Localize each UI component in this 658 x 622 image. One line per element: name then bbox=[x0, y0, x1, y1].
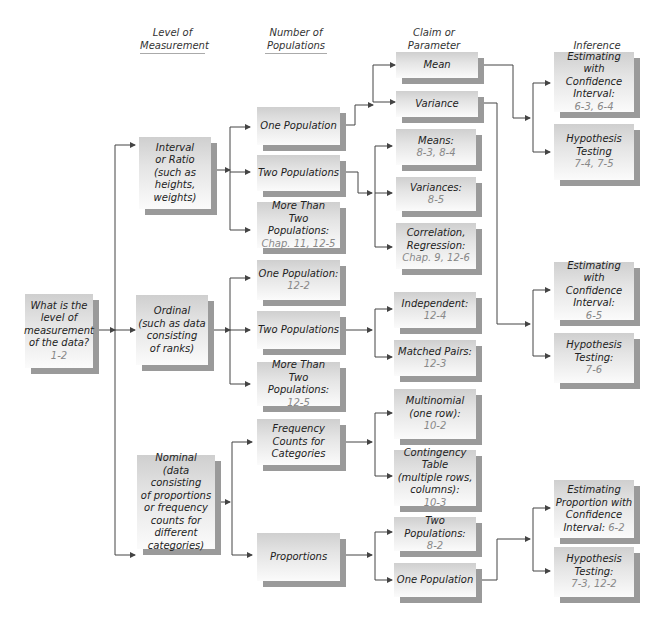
box-text: measurement bbox=[24, 325, 94, 338]
section-ref: 8-5 bbox=[428, 194, 444, 207]
pop-proportions-box: Proportions bbox=[257, 533, 340, 581]
box-text: Counts for bbox=[273, 436, 325, 449]
level-interval-ratio-box: Interval or Ratio (such as heights, weig… bbox=[139, 137, 211, 209]
box-text: Two Populations: bbox=[257, 372, 340, 397]
box-text: Hypothesis bbox=[566, 133, 622, 146]
box-text: of the data? bbox=[29, 337, 89, 350]
section-ref: 8-2 bbox=[427, 540, 443, 553]
pop-ordinal-more-box: More Than Two Populations: 12-5 bbox=[257, 362, 340, 406]
box-text: of proportions bbox=[141, 490, 211, 503]
box-text: One Population bbox=[397, 574, 473, 587]
section-ref: 6-2 bbox=[608, 522, 624, 533]
box-text: (such as data bbox=[138, 318, 206, 331]
box-text: Two Populations: bbox=[257, 213, 340, 238]
box-text: Estimating bbox=[567, 484, 620, 497]
section-ref: Chap. 11, 12-5 bbox=[262, 238, 336, 251]
section-ref: Chap. 9, 12-6 bbox=[402, 252, 470, 265]
section-ref: 6-5 bbox=[586, 310, 602, 323]
box-text: Categories bbox=[272, 448, 326, 461]
section-ref: 7-4, 7-5 bbox=[574, 158, 613, 171]
box-text: More Than bbox=[272, 359, 325, 372]
pop-frequency-counts-box: Frequency Counts for Categories bbox=[257, 419, 340, 465]
box-text: One Population: bbox=[259, 268, 339, 281]
box-text: (multiple rows, bbox=[398, 472, 473, 485]
box-text: (such as bbox=[154, 167, 196, 180]
claim-independent-box: Independent: 12-4 bbox=[394, 292, 476, 328]
box-text: Two Populations bbox=[258, 167, 339, 180]
pop-interval-more-box: More Than Two Populations: Chap. 11, 12-… bbox=[257, 202, 340, 248]
level-nominal-box: Nominal (data consisting of proportions … bbox=[137, 455, 215, 549]
box-text: weights) bbox=[154, 192, 197, 205]
box-text: Variances: bbox=[410, 182, 462, 195]
root-question-box: What is the level of measurement of the … bbox=[25, 294, 93, 368]
box-text: Estimating bbox=[567, 51, 620, 64]
inference-hypothesis-testing-1-box: Hypothesis Testing 7-4, 7-5 bbox=[554, 124, 634, 180]
box-text: More Than bbox=[272, 200, 325, 213]
box-text: different bbox=[154, 527, 197, 540]
box-text: Testing bbox=[576, 146, 612, 159]
box-text: Contingency Table bbox=[394, 447, 476, 472]
inference-estimating-proportion-ci-box: Estimating Proportion with Confidence In… bbox=[554, 480, 634, 538]
box-text: consisting bbox=[147, 330, 198, 343]
section-ref: 8-3, 8-4 bbox=[416, 147, 455, 160]
box-text: (one row): bbox=[409, 408, 460, 421]
box-text: Proportion with bbox=[556, 497, 632, 510]
claim-variances-box: Variances: 8-5 bbox=[396, 177, 476, 211]
box-text: Ordinal bbox=[154, 305, 190, 318]
section-ref: 1-2 bbox=[51, 350, 67, 363]
box-text: Confidence bbox=[566, 509, 622, 522]
section-ref: 10-2 bbox=[424, 420, 447, 433]
box-text: Hypothesis bbox=[566, 553, 622, 566]
section-ref: 12-2 bbox=[287, 280, 310, 293]
claim-multinomial-box: Multinomial (one row): 10-2 bbox=[394, 389, 476, 439]
pop-interval-two-box: Two Populations bbox=[257, 155, 340, 191]
claim-two-populations-box: Two Populations: 8-2 bbox=[394, 517, 476, 551]
box-text: Nominal bbox=[155, 452, 196, 465]
section-ref: 7-3, 12-2 bbox=[571, 578, 616, 591]
box-text: or frequency bbox=[144, 502, 208, 515]
section-ref: 12-5 bbox=[287, 397, 310, 410]
box-text: Interval: bbox=[573, 297, 615, 310]
box-text: Two Populations: bbox=[394, 515, 476, 540]
claim-mean-box: Mean bbox=[396, 52, 478, 78]
box-text: Proportions bbox=[270, 551, 327, 564]
box-text: level of bbox=[41, 312, 78, 325]
section-ref: 12-4 bbox=[424, 310, 447, 323]
level-ordinal-box: Ordinal (such as data consisting of rank… bbox=[136, 295, 208, 365]
box-text: Two Populations bbox=[258, 324, 339, 337]
box-text: Interval: bbox=[573, 88, 615, 101]
inference-hypothesis-testing-2-box: Hypothesis Testing: 7-6 bbox=[554, 333, 634, 383]
claim-means-box: Means: 8-3, 8-4 bbox=[396, 129, 476, 165]
box-text: counts for bbox=[151, 515, 201, 528]
box-text: One Population bbox=[260, 120, 336, 133]
pop-ordinal-two-box: Two Populations bbox=[257, 311, 340, 349]
claim-contingency-table-box: Contingency Table (multiple rows, column… bbox=[394, 450, 476, 506]
box-text: Variance bbox=[415, 98, 458, 111]
box-text: Interval bbox=[156, 142, 194, 155]
pop-ordinal-one-box: One Population: 12-2 bbox=[257, 260, 340, 300]
box-text: (data consisting bbox=[137, 465, 215, 490]
box-text: Matched Pairs: bbox=[398, 346, 472, 359]
inference-estimating-ci-2-box: Estimating with Confidence Interval: 6-5 bbox=[554, 262, 634, 320]
box-text: Correlation, bbox=[407, 227, 466, 240]
box-text: or Ratio bbox=[155, 154, 194, 167]
box-text: Estimating bbox=[567, 260, 620, 273]
inference-estimating-ci-1-box: Estimating with Confidence Interval: 6-3… bbox=[554, 52, 634, 112]
section-ref: 12-3 bbox=[424, 358, 447, 371]
box-text: Testing: bbox=[575, 566, 614, 579]
claim-matched-pairs-box: Matched Pairs: 12-3 bbox=[394, 340, 476, 376]
box-text: Mean bbox=[423, 59, 450, 72]
section-ref: 6-3, 6-4 bbox=[574, 101, 613, 114]
box-text: heights, bbox=[155, 179, 195, 192]
box-text: with Confidence bbox=[554, 272, 634, 297]
box-text: What is the bbox=[30, 300, 87, 313]
box-text: Testing: bbox=[575, 352, 614, 365]
claim-correlation-regression-box: Correlation, Regression: Chap. 9, 12-6 bbox=[396, 223, 476, 269]
box-text: Means: bbox=[418, 135, 454, 148]
claim-one-population-box: One Population bbox=[394, 563, 476, 597]
box-text: Multinomial bbox=[406, 395, 464, 408]
box-text: Independent: bbox=[402, 298, 469, 311]
section-ref: 7-6 bbox=[586, 364, 602, 377]
box-text: Interval: bbox=[563, 522, 605, 533]
claim-variance-box: Variance bbox=[396, 91, 478, 117]
